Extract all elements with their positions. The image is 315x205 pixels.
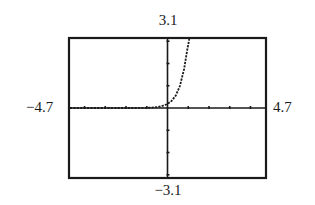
- curve-plot: [70, 39, 189, 108]
- graph-window: [0, 0, 315, 205]
- curve-line: [70, 39, 189, 108]
